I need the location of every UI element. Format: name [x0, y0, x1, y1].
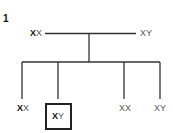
child-4-rest: XY [154, 103, 166, 113]
pedigree-lines [0, 0, 173, 133]
mother-genotype: XX [30, 29, 42, 38]
child-4-genotype: XY [154, 104, 166, 113]
mother-rest: X [36, 28, 42, 38]
child-2-rest: Y [58, 111, 64, 121]
father-genotype: XY [140, 29, 152, 38]
father-rest: XY [140, 28, 152, 38]
child-1-rest: X [23, 103, 29, 113]
child-3-rest: XX [119, 103, 131, 113]
child-2-genotype: XY [52, 112, 64, 121]
child-3-genotype: XX [119, 104, 131, 113]
child-1-genotype: XX [17, 104, 29, 113]
